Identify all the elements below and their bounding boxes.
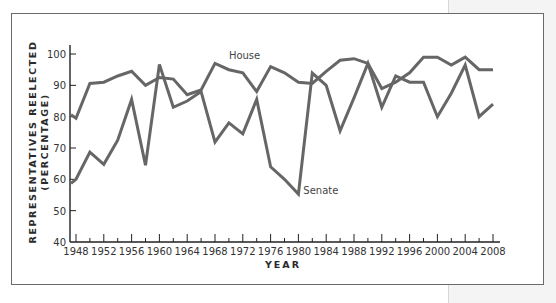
- x-tick-label: 1968: [202, 246, 227, 257]
- x-tick-label: 1992: [369, 246, 394, 257]
- label-senate: Senate: [303, 185, 338, 196]
- x-tick-label: 1948: [63, 246, 88, 257]
- y-tick-label: 90: [53, 80, 66, 91]
- y-tick-label: 50: [53, 206, 66, 217]
- x-tick-label: 1972: [230, 246, 255, 257]
- y-tick-label: 70: [53, 143, 66, 154]
- x-tick-label: 1980: [286, 246, 311, 257]
- x-tick-label: 2008: [480, 246, 505, 257]
- x-tick-label: 1976: [258, 246, 283, 257]
- x-tick-label: 1960: [147, 246, 172, 257]
- series-senate-line: [71, 63, 493, 194]
- x-tick-label: 2004: [452, 246, 477, 257]
- x-axis-label: YEAR: [265, 259, 301, 270]
- series-lines: [71, 57, 493, 194]
- x-tick-label: 2000: [425, 246, 450, 257]
- y-axis-label-line1: REPRESENTATIVES REELECTED: [27, 32, 39, 252]
- x-tick-label: 1996: [397, 246, 422, 257]
- y-tick-label: 60: [53, 174, 66, 185]
- x-tick-label: 1984: [313, 246, 338, 257]
- y-axis-label: REPRESENTATIVES REELECTED (PERCENTAGE): [27, 32, 51, 252]
- x-tick-label: 1956: [119, 246, 144, 257]
- y-tick-label: 80: [53, 112, 66, 123]
- x-tick-label: 1988: [341, 246, 366, 257]
- y-axis-label-line2: (PERCENTAGE): [39, 32, 51, 252]
- x-tick-label: 1952: [91, 246, 116, 257]
- label-house: House: [229, 50, 260, 61]
- x-tick-label: 1964: [174, 246, 199, 257]
